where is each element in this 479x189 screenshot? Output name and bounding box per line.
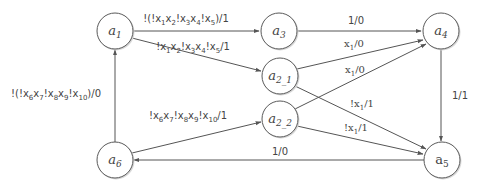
label-a2_1-a5: !x1/1 [350, 98, 374, 112]
label-a5-a6: 1/0 [272, 146, 288, 157]
node-a3[interactable]: a3 [261, 13, 299, 51]
node-a4[interactable]: a4 [423, 13, 461, 51]
label-a3-a4: 1/0 [348, 15, 364, 26]
node-a1[interactable]: a1 [97, 13, 135, 51]
edge-a2_1-a5[interactable] [295, 86, 426, 149]
node-a4-label: a [434, 23, 442, 38]
node-a2_2[interactable]: a2_2 [262, 101, 300, 139]
label-a6-a2_2: !x6x7!x8x9!x10/1 [149, 110, 227, 124]
node-a5[interactable]: a5 [424, 142, 462, 180]
node-a3-label: a [272, 23, 280, 38]
label-a2_2-a5: !x1/1 [344, 122, 368, 136]
label-a4-a5: 1/1 [452, 90, 468, 101]
label-a1-a2_1: !x1x2!x3x4!x5/1 [156, 41, 230, 55]
node-a2_2-label: a [268, 111, 276, 126]
label-a1-a3: !(!x1x2!x3x4!x5)/1 [143, 13, 229, 27]
node-a6-label: a [108, 152, 116, 167]
node-a2_1[interactable]: a2_1 [262, 58, 300, 96]
node-a1-label: a [108, 23, 116, 38]
node-a2_1-label: a [268, 68, 276, 83]
edge-a6-a2_2[interactable] [132, 122, 261, 153]
label-a6-a1: !(!x6x7!x8x9!x10)/0 [11, 88, 101, 102]
state-diagram: a1 a3 a4 a2_1 a2_2 a6 a5 !(!x1x2!x3x4!x5… [0, 0, 479, 189]
label-a2_1-a4: x1/0 [344, 38, 364, 52]
edge-a2_2-a4[interactable] [295, 44, 426, 109]
node-a6[interactable]: a6 [97, 142, 135, 180]
